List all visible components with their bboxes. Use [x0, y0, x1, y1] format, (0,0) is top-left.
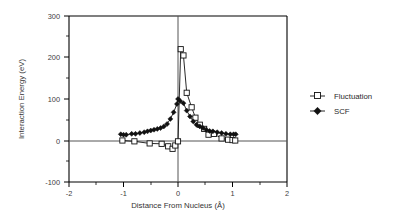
data-point-open-square: [178, 47, 183, 52]
data-point-open-square: [181, 53, 186, 58]
y-tick-label-0: 0: [56, 137, 60, 146]
x-tick-label-0: 0: [176, 189, 180, 198]
legend-item-scf[interactable]: SCF: [310, 107, 350, 116]
x-tick-label-neg1: -1: [120, 189, 127, 198]
x-axis-ticks: -2 -1 0 1 2: [66, 182, 289, 198]
x-axis-title: Distance From Nucleus (Å): [131, 201, 225, 210]
legend-item-fluctuation[interactable]: Fluctuation: [310, 92, 372, 101]
y-tick-label-100: 100: [48, 95, 60, 104]
open-square-icon: [315, 93, 321, 99]
interaction-energy-plot: 300 200 100 0 -100 -2 -1 0 1 2 Distance …: [0, 0, 394, 222]
chart-legend: Fluctuation SCF: [310, 92, 372, 116]
legend-label-fluctuation: Fluctuation: [334, 92, 372, 101]
data-point-open-square: [159, 141, 164, 146]
filled-diamond-icon: [314, 107, 321, 114]
x-tick-label-2: 2: [285, 189, 289, 198]
x-tick-label-1: 1: [230, 189, 234, 198]
y-axis-title: Interaction Energy (eV): [17, 59, 26, 140]
chart-figure: 300 200 100 0 -100 -2 -1 0 1 2 Distance …: [0, 0, 394, 222]
data-point-open-square: [120, 138, 125, 143]
data-point-open-square: [175, 139, 180, 144]
data-point-open-square: [233, 138, 238, 143]
data-point-open-square: [189, 105, 194, 110]
data-point-open-square: [219, 136, 224, 141]
data-point-open-square: [184, 90, 189, 95]
x-tick-label-neg2: -2: [66, 189, 73, 198]
data-point-open-square: [132, 139, 137, 144]
y-axis-ticks: 300 200 100 0 -100: [45, 12, 69, 187]
legend-label-scf: SCF: [334, 107, 350, 116]
y-tick-label-200: 200: [48, 53, 60, 62]
y-tick-label-300: 300: [48, 12, 60, 21]
y-tick-label-neg100: -100: [45, 178, 60, 187]
data-point-open-square: [147, 141, 152, 146]
